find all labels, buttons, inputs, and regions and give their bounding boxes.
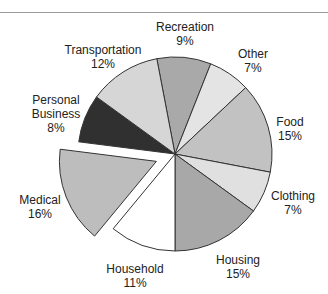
label-housing: Housing 15%: [213, 253, 263, 281]
label-household: Household 11%: [100, 262, 170, 290]
label-personal-business: Personal Business 8%: [26, 93, 86, 135]
label-food: Food 15%: [270, 115, 310, 143]
label-recreation: Recreation 9%: [155, 20, 215, 48]
label-medical: Medical 16%: [15, 193, 65, 221]
label-transportation: Transportation 12%: [58, 43, 148, 71]
label-other: Other 7%: [228, 47, 278, 75]
label-clothing: Clothing 7%: [268, 189, 318, 217]
